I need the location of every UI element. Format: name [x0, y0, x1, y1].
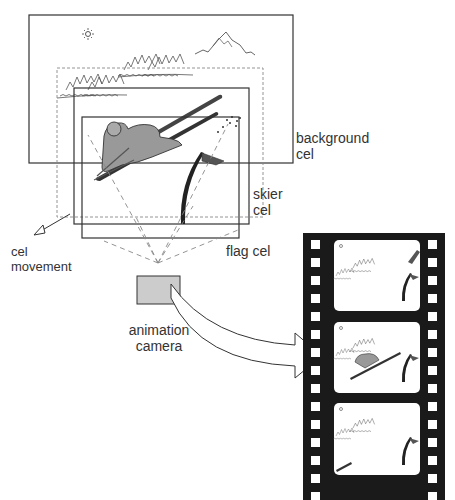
sprocket-hole — [428, 456, 437, 465]
skier-cel-label-line2: cel — [253, 202, 283, 218]
sprocket-hole — [311, 474, 320, 483]
sprocket-hole — [428, 438, 437, 447]
sprocket-hole — [311, 276, 320, 285]
film-frame-2 — [333, 322, 420, 393]
film-strip — [303, 233, 445, 500]
sprocket-hole — [311, 330, 320, 339]
skier-cel-label-line1: skier — [253, 186, 283, 202]
sprocket-hole — [428, 384, 437, 393]
sprocket-hole — [428, 402, 437, 411]
sprocket-hole — [311, 294, 320, 303]
sprocket-hole — [311, 384, 320, 393]
cel-movement-label: cel movement — [11, 244, 72, 274]
sprocket-hole — [428, 474, 437, 483]
cel-movement-label-line2: movement — [11, 259, 72, 274]
sprocket-hole — [428, 312, 437, 321]
sprocket-hole — [428, 366, 437, 375]
sprocket-hole — [428, 348, 437, 357]
background-cel-label: background cel — [296, 130, 369, 162]
sprocket-hole — [311, 438, 320, 447]
background-cel-label-line1: background — [296, 130, 369, 146]
sprocket-hole — [311, 366, 320, 375]
sprocket-hole — [311, 348, 320, 357]
sprocket-hole — [311, 240, 320, 249]
sprocket-hole — [311, 312, 320, 321]
film-frame-3 — [333, 403, 420, 475]
animation-camera-label-line2: camera — [126, 338, 192, 354]
flag-cel-label: flag cel — [226, 243, 270, 259]
sun-icon — [82, 28, 94, 40]
sprocket-hole — [311, 420, 320, 429]
camera-to-film-arrow — [171, 284, 322, 378]
film-frame-1 — [333, 240, 420, 311]
sprocket-hole — [311, 258, 320, 267]
sprocket-hole — [428, 492, 437, 500]
animation-camera-label: animation camera — [126, 322, 192, 354]
sprocket-hole — [428, 276, 437, 285]
sprocket-hole — [428, 294, 437, 303]
cel-movement-arrow — [34, 214, 70, 235]
skier-figure — [94, 95, 222, 181]
cel-movement-label-line1: cel — [11, 244, 72, 259]
skier-cel — [74, 88, 249, 224]
sprocket-hole — [311, 492, 320, 500]
sprocket-hole — [428, 420, 437, 429]
animation-camera-label-line1: animation — [126, 322, 192, 338]
tree-line-4 — [82, 74, 124, 96]
mountain-peak — [195, 32, 255, 55]
sprocket-hole — [311, 402, 320, 411]
sprocket-hole — [311, 456, 320, 465]
sprocket-hole — [428, 240, 437, 249]
sprocket-hole — [428, 330, 437, 339]
background-cel-label-line2: cel — [296, 146, 369, 162]
snow-spray — [217, 116, 241, 133]
skier-cel-label: skier cel — [253, 186, 283, 218]
sprocket-hole — [428, 258, 437, 267]
